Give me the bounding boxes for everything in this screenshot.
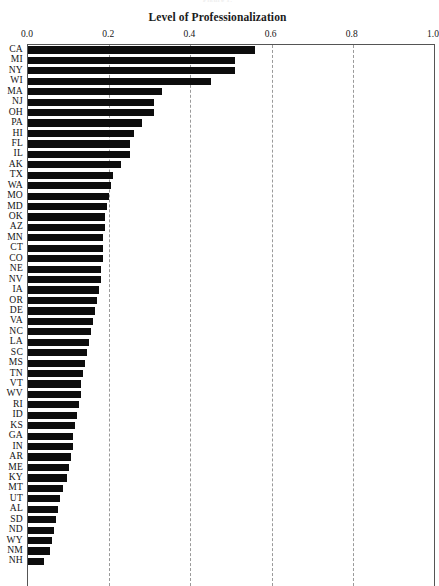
bar-row[interactable]: [28, 160, 434, 170]
bar[interactable]: [28, 474, 67, 481]
bar[interactable]: [28, 224, 105, 231]
bar[interactable]: [28, 172, 113, 179]
bar-row[interactable]: [28, 316, 434, 326]
bar[interactable]: [28, 412, 77, 419]
bar[interactable]: [28, 307, 95, 314]
bar-row[interactable]: [28, 222, 434, 232]
bar-row[interactable]: [28, 348, 434, 358]
bar[interactable]: [28, 57, 235, 64]
bar[interactable]: [28, 318, 93, 325]
bar[interactable]: [28, 193, 109, 200]
bar-row[interactable]: [28, 400, 434, 410]
bar[interactable]: [28, 161, 121, 168]
bar[interactable]: [28, 297, 97, 304]
bar[interactable]: [28, 537, 52, 544]
bar-row[interactable]: [28, 45, 434, 55]
bar-row[interactable]: [28, 170, 434, 180]
bar[interactable]: [28, 67, 235, 74]
bar[interactable]: [28, 151, 130, 158]
bar[interactable]: [28, 213, 105, 220]
bar-row[interactable]: [28, 494, 434, 504]
bar[interactable]: [28, 401, 79, 408]
bar[interactable]: [28, 130, 134, 137]
bar-row[interactable]: [28, 191, 434, 201]
bar[interactable]: [28, 547, 50, 554]
bar-row[interactable]: [28, 337, 434, 347]
bar-row[interactable]: [28, 389, 434, 399]
bar-row[interactable]: [28, 379, 434, 389]
bar-row[interactable]: [28, 515, 434, 525]
bar-row[interactable]: [28, 254, 434, 264]
bar[interactable]: [28, 527, 54, 534]
bar-row[interactable]: [28, 285, 434, 295]
bar-row[interactable]: [28, 181, 434, 191]
bar[interactable]: [28, 203, 107, 210]
bar-row[interactable]: [28, 55, 434, 65]
bar-row[interactable]: [28, 327, 434, 337]
bar[interactable]: [28, 433, 73, 440]
bar-row[interactable]: [28, 358, 434, 368]
bar-row[interactable]: [28, 212, 434, 222]
bar[interactable]: [28, 182, 111, 189]
bar[interactable]: [28, 245, 103, 252]
bar-row[interactable]: [28, 473, 434, 483]
bar-row[interactable]: [28, 525, 434, 535]
bar-row[interactable]: [28, 536, 434, 546]
bar[interactable]: [28, 46, 255, 53]
bar[interactable]: [28, 266, 101, 273]
bar[interactable]: [28, 485, 63, 492]
bar-row[interactable]: [28, 66, 434, 76]
bar-row[interactable]: [28, 139, 434, 149]
bar-row[interactable]: [28, 431, 434, 441]
bar-row[interactable]: [28, 243, 434, 253]
bar[interactable]: [28, 453, 71, 460]
bar[interactable]: [28, 234, 103, 241]
bar[interactable]: [28, 78, 211, 85]
bar-row[interactable]: [28, 410, 434, 420]
bar[interactable]: [28, 360, 85, 367]
bar[interactable]: [28, 391, 81, 398]
bar-row[interactable]: [28, 76, 434, 86]
bar[interactable]: [28, 380, 81, 387]
bar-row[interactable]: [28, 483, 434, 493]
bar[interactable]: [28, 495, 60, 502]
bar-row[interactable]: [28, 452, 434, 462]
bar-row[interactable]: [28, 108, 434, 118]
bar-row[interactable]: [28, 264, 434, 274]
bar[interactable]: [28, 349, 87, 356]
bar-row[interactable]: [28, 296, 434, 306]
bar-row[interactable]: [28, 546, 434, 556]
bar[interactable]: [28, 119, 142, 126]
bar[interactable]: [28, 506, 58, 513]
bar-row[interactable]: [28, 149, 434, 159]
bar[interactable]: [28, 88, 162, 95]
bar-row[interactable]: [28, 202, 434, 212]
bar[interactable]: [28, 286, 99, 293]
bar-row[interactable]: [28, 118, 434, 128]
bar-row[interactable]: [28, 306, 434, 316]
bar[interactable]: [28, 422, 75, 429]
bar[interactable]: [28, 339, 89, 346]
bar[interactable]: [28, 140, 130, 147]
bar-row[interactable]: [28, 369, 434, 379]
bar-row[interactable]: [28, 463, 434, 473]
bar[interactable]: [28, 99, 154, 106]
bar-row[interactable]: [28, 421, 434, 431]
bar-row[interactable]: [28, 504, 434, 514]
bar[interactable]: [28, 109, 154, 116]
bar-row[interactable]: [28, 442, 434, 452]
bar-row[interactable]: [28, 129, 434, 139]
bar-row[interactable]: [28, 275, 434, 285]
bar-row[interactable]: [28, 87, 434, 97]
bar[interactable]: [28, 443, 73, 450]
bar[interactable]: [28, 370, 83, 377]
bar[interactable]: [28, 464, 69, 471]
bar[interactable]: [28, 276, 101, 283]
bar-row[interactable]: [28, 97, 434, 107]
bar-row[interactable]: [28, 233, 434, 243]
bar[interactable]: [28, 558, 44, 565]
bar[interactable]: [28, 516, 56, 523]
bar[interactable]: [28, 328, 91, 335]
bar[interactable]: [28, 255, 103, 262]
bar-row[interactable]: [28, 556, 434, 566]
